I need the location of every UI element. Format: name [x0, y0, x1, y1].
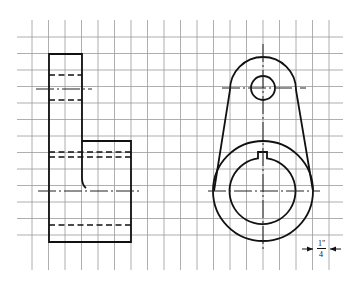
side-view-fillet-line: [82, 141, 86, 188]
dimension-denominator: 4: [319, 250, 323, 259]
grid-drawing: 1" 4: [0, 0, 359, 287]
dimension-numerator: 1": [318, 239, 325, 248]
scale-dimension: 1" 4: [302, 239, 341, 259]
arrowhead-left-icon: [330, 247, 336, 252]
side-view-outline: [49, 54, 131, 242]
grid-paper: [17, 20, 343, 270]
side-view: [36, 54, 140, 242]
front-view: [208, 44, 320, 252]
